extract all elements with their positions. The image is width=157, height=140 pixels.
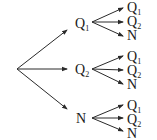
sub-branch-arrow [92,22,123,36]
root-branch-arrow [17,69,67,109]
sub-branch-arrow [92,118,123,131]
sub-branch-arrow [92,56,123,69]
sub-branch-arrow [92,69,123,70]
probability-tree-diagram: Q1Q1Q2NQ2Q1Q2NNQ1Q2N [0,0,157,140]
level2-node-n: N [127,77,137,92]
level2-node-n: N [127,28,137,43]
level1-node-q1: Q1 [75,16,89,33]
level2-node-n: N [127,126,137,140]
sub-branch-arrow [92,69,123,84]
level1-node-q2: Q2 [75,62,89,79]
sub-branch-arrow [92,8,123,22]
sub-branch-arrow [92,105,123,118]
tree-edges [17,8,123,131]
level1-node-n: N [76,111,86,126]
root-branch-arrow [17,30,67,69]
